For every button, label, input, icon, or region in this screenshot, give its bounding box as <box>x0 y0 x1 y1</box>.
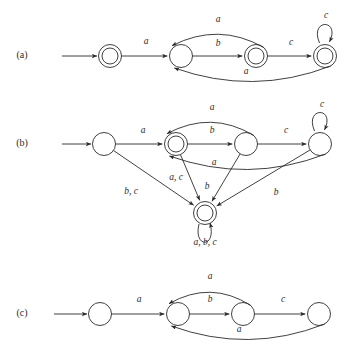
panel-label-c: (c) <box>16 307 27 319</box>
transition-label-b-e10: b <box>274 187 279 197</box>
state-b-q4 <box>194 202 217 225</box>
transition-a-e5 <box>174 66 330 81</box>
transition-label-a-e6: c <box>324 10 329 20</box>
state-circle <box>235 133 258 156</box>
accepting-inner-circle <box>248 48 264 64</box>
transition-b-e8 <box>180 155 199 201</box>
state-c-q0 <box>89 303 112 326</box>
transition-c-e5 <box>171 324 324 339</box>
transition-b-e5 <box>169 154 325 169</box>
panel-b: (b)abcaacb, ca, cbba, b, c <box>16 99 331 247</box>
transition-label-b-e11: a, b, c <box>193 237 217 247</box>
panel-c: (c)abcaa <box>16 271 330 339</box>
transition-b-e10 <box>217 150 310 206</box>
accepting-inner-circle <box>317 48 333 64</box>
transition-label-b-e7: b, c <box>124 186 139 196</box>
panel-a: (a)abcaac <box>16 10 336 81</box>
transition-label-b-e4: a <box>210 102 215 112</box>
transition-label-c-e5: a <box>237 324 242 334</box>
transition-b-e6 <box>312 112 327 131</box>
state-b-q0 <box>93 133 116 156</box>
accepting-inner-circle <box>197 205 213 221</box>
panel-label-a: (a) <box>16 49 27 61</box>
state-circle <box>170 45 193 68</box>
transition-label-c-e2: b <box>208 294 213 304</box>
transition-label-c-e1: a <box>137 294 142 304</box>
transition-label-a-e3: c <box>289 37 294 47</box>
state-a-q1 <box>170 45 193 68</box>
transition-label-b-e2: b <box>210 125 215 135</box>
state-b-q2 <box>235 133 258 156</box>
state-b-q3 <box>309 133 332 156</box>
state-c-q3 <box>308 303 331 326</box>
transition-label-a-e4: a <box>216 14 221 24</box>
transition-label-a-e2: b <box>216 38 221 48</box>
transition-label-b-e1: a <box>141 125 146 135</box>
state-circle <box>167 303 190 326</box>
state-circle <box>232 303 255 326</box>
panel-label-b: (b) <box>16 137 28 149</box>
transition-label-b-e5: a <box>212 157 217 167</box>
state-circle <box>93 133 116 156</box>
state-circle <box>89 303 112 326</box>
transition-label-b-e8: a, c <box>169 172 184 182</box>
transition-label-a-e5: a <box>244 66 249 76</box>
dfa-figure-canvas: (a)abcaac(b)abcaacb, ca, cbba, b, c(c)ab… <box>0 0 348 357</box>
dfa-figure: (a)abcaac(b)abcaacb, ca, cbba, b, c(c)ab… <box>0 0 348 357</box>
state-circle <box>309 133 332 156</box>
state-a-q0 <box>99 45 122 68</box>
transition-label-b-e3: c <box>284 125 289 135</box>
accepting-inner-circle <box>168 136 184 152</box>
transition-label-a-e1: a <box>144 36 149 46</box>
transition-label-c-e4: a <box>208 271 213 281</box>
state-c-q1 <box>167 303 190 326</box>
accepting-inner-circle <box>102 48 118 64</box>
transition-a-e6 <box>317 24 332 43</box>
state-circle <box>308 303 331 326</box>
transition-label-b-e9: b <box>205 181 210 191</box>
state-b-q1 <box>165 133 188 156</box>
state-a-q2 <box>245 45 268 68</box>
state-c-q2 <box>232 303 255 326</box>
transition-label-c-e3: c <box>281 294 286 304</box>
transition-label-b-e6: c <box>320 99 325 109</box>
state-a-q3 <box>314 45 337 68</box>
